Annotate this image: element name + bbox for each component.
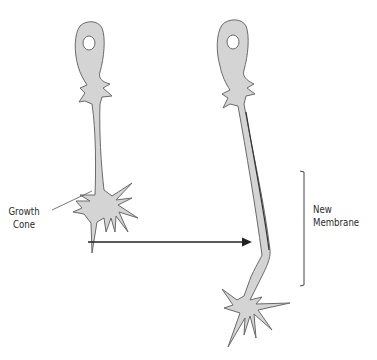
label-growth-cone-line2: Cone [6,218,42,231]
new-membrane-bracket [300,171,304,286]
growth-arrow [88,238,252,247]
nucleus-after [227,35,239,49]
neuron-before [73,22,138,253]
neuron-growth-diagram [0,0,377,360]
cell-body-before [73,22,138,253]
arrow-head-icon [242,238,252,247]
cell-body-after [217,20,290,347]
label-new-membrane-line1: New [313,203,370,216]
label-new-membrane-line2: Membrane [313,216,370,229]
label-growth-cone: Growth Cone [6,205,42,231]
label-new-membrane: New Membrane [313,203,370,229]
label-growth-cone-line1: Growth [6,205,42,218]
new-membrane-edge [246,112,269,250]
nucleus-before [83,36,95,50]
neuron-after [217,20,290,347]
